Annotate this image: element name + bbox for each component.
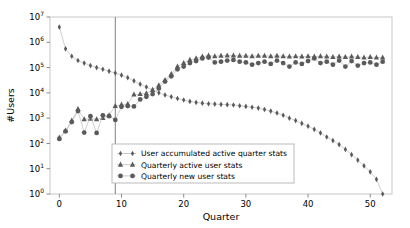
y-tick-label: 106 bbox=[29, 35, 44, 47]
data-point-circle bbox=[69, 120, 74, 125]
data-point-circle bbox=[132, 104, 137, 109]
data-point-circle bbox=[306, 59, 311, 64]
data-point-circle bbox=[82, 130, 87, 135]
data-point-circle bbox=[256, 61, 261, 66]
data-point-circle bbox=[337, 58, 342, 63]
data-point-circle bbox=[100, 113, 105, 118]
legend-label: User accumulated active quarter stats bbox=[141, 149, 287, 158]
data-point-circle bbox=[281, 61, 286, 66]
data-point-circle bbox=[125, 104, 130, 109]
data-point-circle bbox=[88, 114, 93, 119]
x-tick-label: 40 bbox=[303, 199, 314, 209]
data-point-circle bbox=[225, 58, 230, 63]
y-tick-label: 105 bbox=[29, 61, 44, 73]
data-point-circle bbox=[262, 59, 267, 64]
data-point-circle bbox=[169, 74, 174, 79]
data-point-circle bbox=[118, 174, 123, 179]
y-tick-label: 102 bbox=[29, 137, 44, 149]
data-point-circle bbox=[343, 64, 348, 69]
legend-item-0[interactable]: User accumulated active quarter stats bbox=[117, 149, 287, 158]
data-point-circle bbox=[374, 62, 379, 67]
data-point-circle bbox=[318, 61, 323, 66]
y-tick-label: 101 bbox=[29, 162, 44, 174]
data-point-circle bbox=[156, 86, 161, 91]
legend-label: Quarterly new user stats bbox=[141, 172, 235, 181]
data-point-circle bbox=[181, 64, 186, 69]
data-point-circle bbox=[63, 129, 68, 134]
x-tick-label: 50 bbox=[365, 199, 376, 209]
y-tick-label: 107 bbox=[29, 10, 44, 22]
data-point-circle bbox=[150, 92, 155, 97]
data-point-circle bbox=[163, 79, 168, 84]
data-point-circle bbox=[76, 109, 81, 114]
data-point-circle bbox=[212, 60, 217, 65]
data-point-circle bbox=[293, 60, 298, 65]
x-axis-title: Quarter bbox=[203, 211, 240, 222]
y-tick-label: 103 bbox=[29, 111, 44, 123]
data-point-circle bbox=[200, 56, 205, 61]
data-point-circle bbox=[231, 58, 236, 63]
x-tick-label: 0 bbox=[57, 199, 62, 209]
y-axis-title: #Users bbox=[5, 88, 16, 123]
data-point-circle bbox=[268, 62, 273, 67]
data-point-circle bbox=[299, 62, 304, 67]
data-point-circle bbox=[275, 58, 280, 63]
data-point-circle bbox=[362, 61, 367, 66]
data-point-circle bbox=[287, 64, 292, 69]
x-tick-label: 20 bbox=[178, 199, 189, 209]
data-point-circle bbox=[144, 94, 149, 99]
legend-layer[interactable]: User accumulated active quarter statsQua… bbox=[112, 144, 294, 183]
data-point-circle bbox=[194, 59, 199, 64]
data-point-circle bbox=[331, 62, 336, 67]
data-point-circle bbox=[188, 61, 193, 66]
data-point-circle bbox=[57, 137, 62, 142]
data-point-circle bbox=[380, 59, 385, 64]
y-tick-label: 104 bbox=[29, 86, 44, 98]
data-point-circle bbox=[130, 174, 135, 179]
y-tick-label: 100 bbox=[29, 187, 44, 199]
data-point-circle bbox=[94, 131, 99, 136]
data-point-circle bbox=[113, 118, 118, 123]
data-point-circle bbox=[119, 104, 124, 109]
data-point-circle bbox=[107, 114, 112, 119]
data-point-circle bbox=[243, 60, 248, 65]
data-point-circle bbox=[368, 60, 373, 65]
legend-label: Quarterly active user stats bbox=[141, 161, 242, 170]
data-point-circle bbox=[355, 63, 360, 68]
data-point-circle bbox=[324, 59, 329, 64]
data-point-circle bbox=[175, 67, 180, 72]
data-point-circle bbox=[219, 59, 224, 64]
x-tick-label: 10 bbox=[116, 199, 127, 209]
chart-canvas: 01020304050100101102103104105106107 User… bbox=[0, 0, 410, 228]
data-point-circle bbox=[237, 59, 242, 64]
data-point-circle bbox=[349, 59, 354, 64]
figure-container: 01020304050100101102103104105106107 User… bbox=[0, 0, 410, 228]
x-tick-label: 30 bbox=[240, 199, 251, 209]
data-point-circle bbox=[138, 97, 143, 102]
data-point-circle bbox=[312, 56, 317, 61]
data-point-circle bbox=[250, 62, 255, 67]
data-point-circle bbox=[206, 55, 211, 60]
